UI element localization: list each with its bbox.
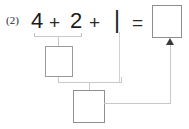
bracket-step1-plus-1-horizontal bbox=[58, 82, 122, 83]
bracket-4-plus-2-dropline bbox=[58, 36, 59, 46]
bracket-4-plus-2-left-tick bbox=[34, 33, 35, 37]
term-first-addend: 4 bbox=[31, 10, 43, 32]
result-answer-box[interactable] bbox=[152, 5, 182, 38]
operator-equals: = bbox=[132, 12, 143, 34]
arrow-path-vertical bbox=[170, 40, 171, 104]
operator-plus-second: + bbox=[89, 12, 100, 34]
term-third-addend: | bbox=[114, 9, 120, 31]
term-second-addend: 2 bbox=[70, 10, 82, 32]
arrow-path-horizontal bbox=[104, 103, 171, 104]
problem-number-label: (2) bbox=[6, 14, 19, 26]
bracket-step1-plus-1-left-tick bbox=[58, 77, 59, 83]
worksheet-problem-canvas: (2) 4 + 2 + | = bbox=[0, 0, 189, 129]
first-partial-sum-box[interactable] bbox=[45, 46, 73, 77]
bracket-step1-plus-1-right-tick bbox=[121, 77, 122, 83]
operator-plus-first: + bbox=[49, 12, 60, 34]
second-partial-sum-box[interactable] bbox=[73, 90, 105, 123]
third-addend-dropline bbox=[119, 32, 120, 82]
arrow-head-icon bbox=[166, 38, 174, 45]
bracket-4-plus-2-right-tick bbox=[81, 33, 82, 37]
